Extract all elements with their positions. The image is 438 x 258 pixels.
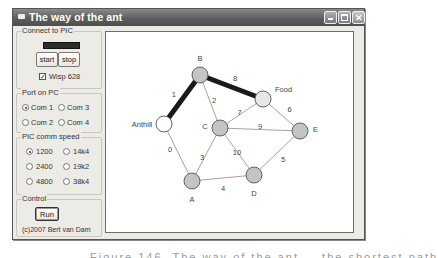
node-label-d: D: [251, 189, 257, 198]
edge-anthill-b: [164, 75, 200, 124]
speed-group-legend: PIC comm speed: [21, 132, 81, 142]
connect-group: Connect to PIC start stop ✓ Wisp 628: [16, 31, 102, 89]
run-button[interactable]: Run: [35, 207, 59, 221]
edge-weight-label: 9: [258, 122, 262, 131]
radio-14k4[interactable]: [63, 148, 70, 155]
control-group-legend: Control: [21, 194, 47, 204]
node-label-b: B: [197, 54, 202, 63]
node-label-a: A: [189, 195, 194, 204]
node-label-food: Food: [275, 85, 292, 94]
node-anthill: [156, 116, 172, 132]
ant-path-graph: 182076910345AnthillBFoodCEDA: [106, 32, 353, 232]
edge-weight-label: 10: [233, 148, 241, 157]
radio-19k2[interactable]: [63, 163, 70, 170]
radio-4800-label: 4800: [36, 177, 53, 186]
close-icon: ✕: [355, 13, 363, 23]
radio-2400-label: 2400: [36, 162, 53, 171]
stop-button[interactable]: stop: [58, 52, 80, 67]
node-label-anthill: Anthill: [132, 120, 153, 129]
maximize-button[interactable]: [338, 11, 351, 24]
edge-b-food: [200, 75, 263, 99]
radio-14k4-label: 14k4: [73, 147, 89, 156]
connection-progress-bar: [43, 42, 80, 49]
radio-1200-label: 1200: [36, 147, 53, 156]
node-label-e: E: [313, 125, 318, 134]
wisp-checkbox[interactable]: ✓: [39, 73, 46, 80]
node-b: [192, 67, 208, 83]
radio-38k4-label: 38k4: [73, 177, 89, 186]
figure-caption: Figure 146. The way of the ant — the sho…: [90, 247, 438, 258]
radio-com1-label: Com 1: [31, 103, 53, 112]
edge-weight-label: 3: [200, 153, 204, 162]
radio-1200[interactable]: [26, 148, 33, 155]
edge-weight-label: 2: [212, 96, 216, 105]
node-c: [212, 120, 228, 136]
node-d: [246, 167, 262, 183]
window-title: The way of the ant: [29, 9, 122, 26]
connect-group-legend: Connect to PIC: [21, 26, 74, 36]
control-group: Control Run (c)2007 Bert van Dam: [16, 199, 102, 237]
radio-com3[interactable]: [58, 104, 65, 111]
radio-com3-label: Com 3: [67, 103, 89, 112]
edge-weight-label: 1: [172, 90, 176, 99]
edge-weight-label: 0: [168, 145, 172, 154]
node-e: [292, 123, 308, 139]
radio-com2-label: Com 2: [31, 118, 53, 127]
title-bar[interactable]: The way of the ant ✕: [13, 9, 364, 26]
port-group-legend: Port on PC: [21, 88, 60, 98]
app-icon: [18, 14, 25, 19]
node-food: [255, 91, 271, 107]
edge-a-d: [192, 175, 254, 181]
start-button[interactable]: start: [36, 52, 58, 67]
port-group: Port on PC Com 1 Com 3 Com 2 Com 4: [16, 93, 102, 133]
maximize-icon: [341, 14, 348, 21]
radio-com4-label: Com 4: [67, 118, 89, 127]
edge-weight-label: 6: [287, 105, 291, 114]
edge-weight-label: 5: [281, 155, 285, 164]
node-label-c: C: [202, 122, 208, 131]
radio-com2[interactable]: [22, 119, 29, 126]
graph-canvas: 182076910345AnthillBFoodCEDA: [105, 31, 354, 233]
minimize-button[interactable]: [324, 11, 337, 24]
edge-weight-label: 8: [233, 74, 237, 83]
radio-com4[interactable]: [58, 119, 65, 126]
copyright-text: (c)2007 Bert van Dam: [22, 226, 90, 233]
minimize-icon: [328, 18, 333, 20]
close-button[interactable]: ✕: [352, 11, 365, 24]
wisp-label: Wisp 628: [49, 72, 80, 81]
radio-4800[interactable]: [26, 178, 33, 185]
radio-com1[interactable]: [22, 104, 29, 111]
client-area: Connect to PIC start stop ✓ Wisp 628 Por…: [13, 26, 364, 239]
node-a: [184, 173, 200, 189]
edge-c-a: [192, 128, 220, 181]
radio-38k4[interactable]: [63, 178, 70, 185]
radio-19k2-label: 19k2: [73, 162, 89, 171]
edge-weight-label: 7: [237, 108, 241, 117]
speed-group: PIC comm speed 1200 14k4 2400 19k2 4800 …: [16, 137, 102, 195]
edge-d-e: [254, 131, 300, 175]
radio-2400[interactable]: [26, 163, 33, 170]
app-window: The way of the ant ✕ Connect to PIC star…: [12, 8, 365, 240]
edge-weight-label: 4: [221, 184, 225, 193]
